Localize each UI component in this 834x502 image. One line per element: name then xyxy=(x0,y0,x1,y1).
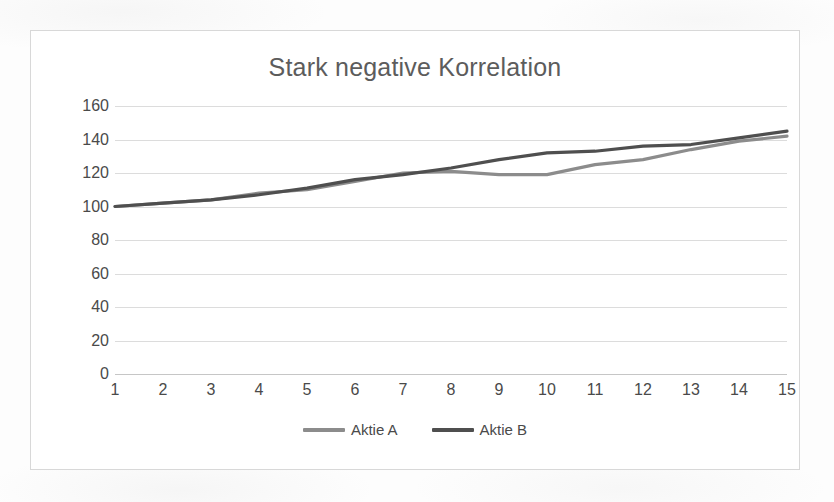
y-axis-tick-label: 40 xyxy=(65,298,109,316)
x-axis-tick-label: 12 xyxy=(634,381,652,399)
legend-entry-aktie-b[interactable]: Aktie B xyxy=(432,421,528,438)
gridline xyxy=(115,374,787,375)
x-axis-tick-labels: 123456789101112131415 xyxy=(115,381,787,407)
chart-legend: Aktie AAktie B xyxy=(31,421,799,438)
x-axis-tick-label: 4 xyxy=(255,381,264,399)
x-axis-tick-label: 1 xyxy=(111,381,120,399)
legend-label: Aktie A xyxy=(351,421,398,438)
x-axis-tick-label: 13 xyxy=(682,381,700,399)
x-axis-tick-label: 7 xyxy=(399,381,408,399)
x-axis-tick-label: 3 xyxy=(207,381,216,399)
y-axis-tick-label: 160 xyxy=(65,97,109,115)
y-axis-tick-label: 80 xyxy=(65,231,109,249)
series-lines xyxy=(115,106,787,374)
series-line-aktie-a xyxy=(115,136,787,206)
y-axis-tick-label: 120 xyxy=(65,164,109,182)
plot-area xyxy=(115,106,787,374)
x-axis-tick-label: 11 xyxy=(587,381,604,399)
legend-line-swatch xyxy=(303,428,345,432)
y-axis-tick-label: 0 xyxy=(65,365,109,383)
x-axis-tick-label: 2 xyxy=(159,381,168,399)
x-axis-tick-label: 15 xyxy=(778,381,796,399)
legend-line-swatch xyxy=(432,428,474,432)
legend-label: Aktie B xyxy=(480,421,528,438)
y-axis-tick-label: 20 xyxy=(65,332,109,350)
x-axis-tick-label: 9 xyxy=(495,381,504,399)
y-axis-tick-labels: 020406080100120140160 xyxy=(59,106,109,374)
x-axis-tick-label: 10 xyxy=(538,381,556,399)
series-line-aktie-b xyxy=(115,131,787,206)
x-axis-tick-label: 14 xyxy=(730,381,748,399)
y-axis-tick-label: 140 xyxy=(65,131,109,149)
x-axis-tick-label: 6 xyxy=(351,381,360,399)
chart-title: Stark negative Korrelation xyxy=(31,53,799,82)
x-axis-tick-label: 8 xyxy=(447,381,456,399)
chart-container: Stark negative Korrelation 0204060801001… xyxy=(30,30,800,470)
y-axis-tick-label: 60 xyxy=(65,265,109,283)
legend-entry-aktie-a[interactable]: Aktie A xyxy=(303,421,398,438)
x-axis-tick-label: 5 xyxy=(303,381,312,399)
y-axis-tick-label: 100 xyxy=(65,198,109,216)
